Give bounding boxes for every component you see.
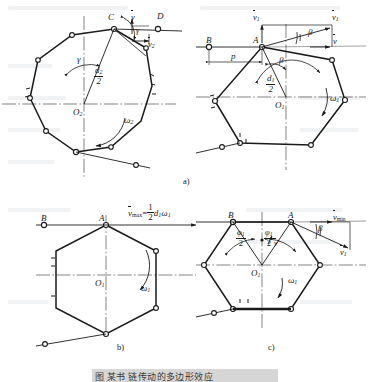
panel-a-right-diagram xyxy=(196,24,366,170)
panel-a-left-diagram xyxy=(2,16,182,178)
label-point-B-b: B xyxy=(41,214,47,223)
panel-tag-b: b) xyxy=(117,342,124,352)
label-half-angle-left-c: φ12 xyxy=(236,228,246,248)
chain-roller-D xyxy=(155,26,160,31)
label-v1-c: v1 xyxy=(340,248,347,258)
label-omega1-c: ω1 xyxy=(288,276,297,286)
label-point-C: C xyxy=(108,13,114,22)
chain-roller-lower-c xyxy=(212,311,217,316)
label-center-O1-a-right: O1 xyxy=(275,101,284,111)
label-center-O1-c: O1 xyxy=(251,269,260,279)
panel-c-diagram xyxy=(196,212,366,330)
label-velocity-v1-perp: v1 xyxy=(253,13,260,23)
label-pitch-p: p xyxy=(231,52,236,61)
label-point-B-c: B xyxy=(228,211,234,220)
chain-strand-lower-right xyxy=(196,143,240,153)
label-velocity-v-a-left: v xyxy=(131,13,135,22)
label-radius-d1-over-2: d12 xyxy=(266,74,275,94)
label-gamma-center-a-left: γ xyxy=(77,55,81,64)
label-point-B-a-right: B xyxy=(206,36,212,45)
label-half-angle-right-c: φ12 xyxy=(264,228,274,248)
page-bleed xyxy=(8,6,360,304)
label-velocity-v2-a-left: v2 xyxy=(148,40,155,50)
chain-roller-lower xyxy=(134,163,139,168)
label-omega1-b: ω1 xyxy=(141,284,150,294)
label-velocity-v1-resultant: v1 xyxy=(332,13,339,23)
label-point-A-c: A xyxy=(288,211,294,220)
label-radius-d2-over-2: d22 xyxy=(94,66,103,86)
label-vmin-c: vmin xyxy=(333,213,346,223)
label-beta-velocity-triangle: β xyxy=(308,28,312,37)
label-beta-c: β xyxy=(318,224,322,233)
label-point-D: D xyxy=(157,12,164,21)
chain-strand-CD xyxy=(114,29,182,31)
panel-tag-a: a) xyxy=(183,176,190,186)
chain-rollers-b xyxy=(104,223,159,337)
omega1-rotation-arc xyxy=(322,88,327,116)
label-center-O1-b: O1 xyxy=(95,279,104,289)
panel-b-diagram xyxy=(36,215,196,346)
label-vprime-c: v′ xyxy=(274,240,279,248)
figure-caption-bar: 图 某书 链传动的多边形效应 xyxy=(92,369,278,382)
label-beta-at-A: β xyxy=(279,56,283,65)
label-point-A-b: A xyxy=(99,214,105,223)
label-gamma-at-C: γ xyxy=(136,27,139,35)
omega2-rotation-arc xyxy=(96,118,125,146)
chain-roller-lower-right xyxy=(220,145,225,150)
chain-rollers xyxy=(28,27,149,155)
label-point-A-a-right: A xyxy=(253,36,259,45)
label-velocity-v-horizontal: v xyxy=(333,37,337,46)
velocity-direction-line xyxy=(114,29,146,56)
chain-roller-B-b xyxy=(41,222,46,227)
omega1-rotation-arc-c xyxy=(278,278,282,298)
velocity-vector-v1-resultant xyxy=(262,28,330,47)
figure-caption-text: 图 某书 链传动的多边形效应 xyxy=(95,370,213,382)
label-vmax-formula: vmax=12d1ω1 xyxy=(128,203,171,223)
figure-canvas xyxy=(0,0,369,382)
panel-tag-c: c) xyxy=(268,342,275,352)
chain-roller-B xyxy=(206,44,211,49)
label-omega2: ω2 xyxy=(124,116,133,126)
label-omega1-a-right: ω1 xyxy=(330,94,339,104)
chain-strand-lower xyxy=(76,152,150,168)
label-center-O2: O2 xyxy=(73,108,82,118)
chain-roller-lower-b xyxy=(43,342,48,347)
sprocket-polygon-nonagon xyxy=(30,29,152,152)
